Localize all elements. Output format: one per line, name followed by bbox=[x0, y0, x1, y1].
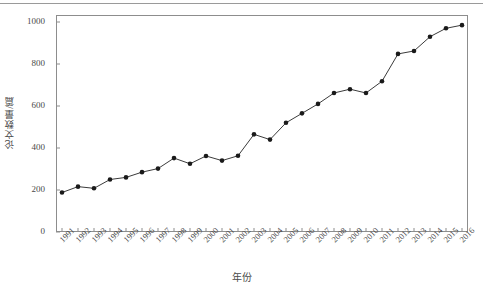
x-axis-tick-labels: 1991199219931994199519961997199819992000… bbox=[0, 0, 483, 294]
x-tick-label: 2016 bbox=[458, 226, 476, 244]
x-axis-title: 年份 bbox=[0, 272, 483, 284]
chart-figure: 02004006008001000 论文数量/篇 199119921993199… bbox=[0, 0, 483, 294]
